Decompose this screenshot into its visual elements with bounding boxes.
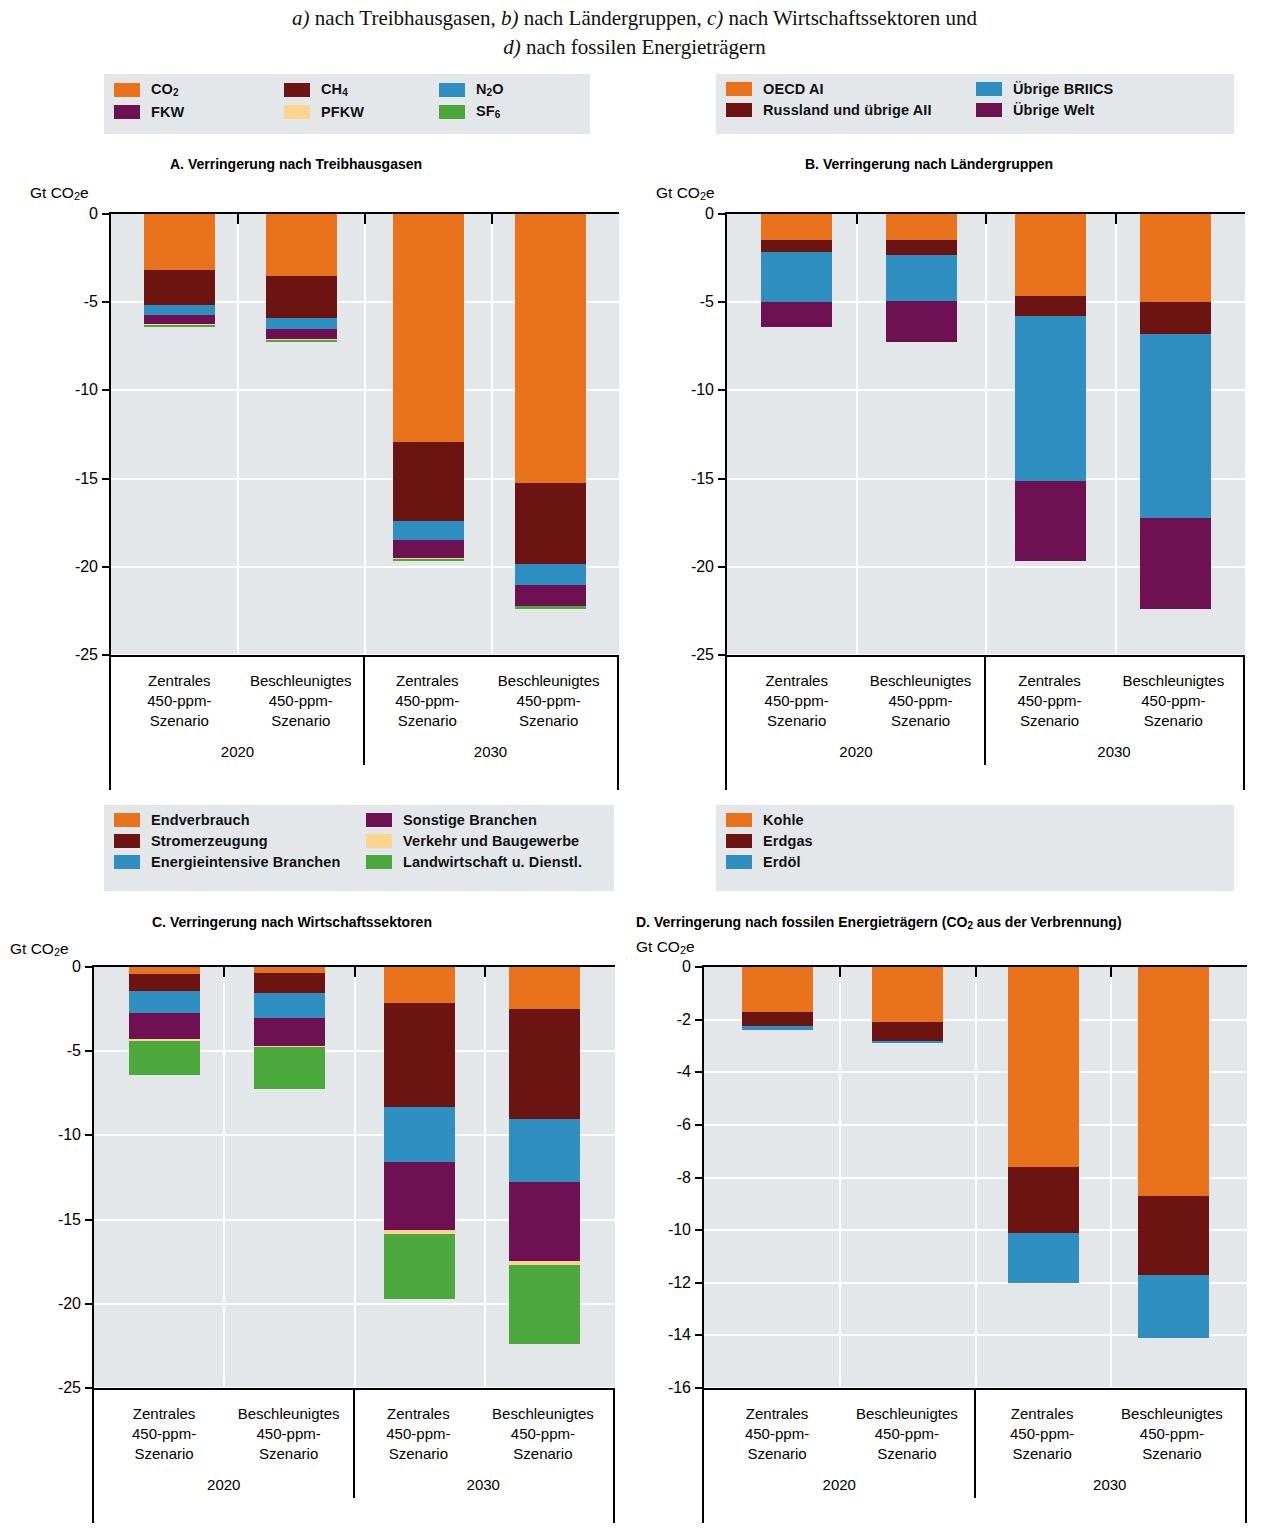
- bar-segment: [509, 1265, 580, 1344]
- legend-item-co2: CO2: [114, 81, 284, 98]
- bar-segment: [1008, 1167, 1079, 1233]
- legend-item-erdgas: Erdgas: [726, 833, 976, 849]
- y-axis-tick: [102, 478, 111, 480]
- bar-segment: [886, 240, 957, 254]
- scenario-label: Beschleunigtes450-ppm-Szenario: [1088, 671, 1258, 731]
- y-axis-label: -6: [677, 1116, 691, 1134]
- legend-swatch-n2o: [439, 83, 465, 97]
- bar-segment: [384, 1107, 455, 1163]
- group-label-2020: 2020: [789, 1476, 889, 1493]
- group-divider: [984, 655, 986, 765]
- x-axis-tick: [1110, 967, 1112, 977]
- scenario-label: Beschleunigtes450-ppm-Szenario: [1087, 1404, 1257, 1464]
- y-axis-label: -25: [691, 646, 714, 664]
- legend-swatch-erdoel: [726, 855, 752, 869]
- bar-c-3: [384, 967, 455, 1299]
- panel-a-x-axis-labels: Zentrales450-ppm-SzenarioBeschleunigtes4…: [109, 655, 619, 790]
- bar-segment: [254, 993, 325, 1018]
- bar-segment: [761, 240, 832, 252]
- group-divider: [363, 655, 365, 765]
- y-axis-tick: [102, 213, 111, 215]
- legend-item-uebrige-welt: Übrige Welt: [976, 102, 1236, 118]
- bar-segment: [393, 559, 464, 562]
- bar-segment: [515, 483, 586, 564]
- scenario-label-line: Szenario: [1087, 1444, 1257, 1464]
- panel-b-axis-unit: Gt CO2e: [656, 184, 715, 202]
- y-axis-label: -20: [58, 1295, 81, 1313]
- y-axis-tick: [718, 301, 727, 303]
- y-axis-label: -5: [700, 293, 714, 311]
- x-axis-tick: [839, 967, 841, 977]
- bar-segment: [384, 967, 455, 1003]
- caption-marker-d: d): [503, 35, 521, 59]
- scenario-label-line: Szenario: [458, 1444, 628, 1464]
- legend-swatch-verkehr-und-baugewerbe: [366, 834, 392, 848]
- vertical-separator: [491, 214, 493, 655]
- y-axis-label: -16: [668, 1379, 691, 1397]
- group-label-2030: 2030: [1064, 743, 1164, 760]
- legend-item-endverbrauch: Endverbrauch: [114, 812, 366, 828]
- bar-segment: [872, 1022, 943, 1040]
- bar-segment: [129, 991, 200, 1014]
- vertical-separator: [1110, 967, 1112, 1388]
- bar-b-1: [761, 214, 832, 327]
- vertical-separator: [237, 214, 239, 655]
- group-label-2020: 2020: [188, 743, 288, 760]
- bar-segment: [266, 318, 337, 329]
- bar-a-4: [515, 214, 586, 609]
- legend-label-kohle: Kohle: [763, 812, 804, 828]
- scenario-label-line: 450-ppm-: [464, 691, 634, 711]
- legend-country-groups: OECD AIÜbrige BRIICSRussland und übrige …: [716, 74, 1234, 134]
- y-axis-label: -25: [58, 1379, 81, 1397]
- legend-swatch-stromerzeugung: [114, 834, 140, 848]
- legend-item-n2o: N2O: [439, 81, 579, 98]
- bar-b-3: [1015, 214, 1086, 561]
- legend-economic-sectors: EndverbrauchSonstige BranchenStromerzeug…: [104, 805, 614, 891]
- bar-segment: [266, 340, 337, 342]
- x-axis-tick: [354, 967, 356, 977]
- bar-segment: [254, 1047, 325, 1089]
- y-axis-tick: [695, 966, 704, 968]
- axis-unit-text: Gt CO: [10, 940, 54, 957]
- bar-d-4: [1138, 967, 1209, 1338]
- legend-swatch-sf6: [439, 105, 465, 119]
- bar-segment: [129, 1041, 200, 1075]
- bar-segment: [515, 214, 586, 483]
- bar-segment: [266, 214, 337, 276]
- y-axis-tick: [718, 478, 727, 480]
- legend-fossil-fuels: KohleErdgasErdöl: [716, 805, 1234, 891]
- legend-greenhouse-gases: CO2CH4N2OFKWPFKWSF6: [104, 74, 590, 134]
- scenario-label-line: Szenario: [464, 711, 634, 731]
- x-axis-tick: [223, 967, 225, 977]
- bar-segment: [886, 214, 957, 240]
- legend-swatch-landwirtschaft-u-dienstl: [366, 855, 392, 869]
- bar-d-3: [1008, 967, 1079, 1283]
- legend-label-sonstige-branchen: Sonstige Branchen: [403, 812, 537, 828]
- y-axis-label: -10: [691, 381, 714, 399]
- caption-marker-b: b): [501, 6, 519, 30]
- panel-d-title: D. Verringerung nach fossilen Energieträ…: [636, 914, 1122, 931]
- bar-segment: [509, 1119, 580, 1181]
- scenario-label-line: Szenario: [1088, 711, 1258, 731]
- panel-a-plot-area: 0-5-10-15-20-25: [109, 212, 619, 655]
- legend-label-erdgas: Erdgas: [763, 833, 813, 849]
- legend-label-fkw: FKW: [151, 104, 184, 120]
- y-axis-tick: [102, 301, 111, 303]
- caption-text-a: nach Treibhausgasen,: [310, 6, 501, 30]
- bar-segment: [1140, 302, 1211, 334]
- y-axis-label: -10: [75, 381, 98, 399]
- scenario-label-line: Beschleunigtes: [458, 1404, 628, 1424]
- x-axis-tick: [491, 214, 493, 224]
- legend-item-fkw: FKW: [114, 103, 284, 120]
- panel-d-title-b: aus der Verbrennung): [973, 914, 1122, 930]
- y-axis-label: -15: [58, 1211, 81, 1229]
- y-axis-label: -5: [84, 293, 98, 311]
- legend-swatch-sonstige-branchen: [366, 813, 392, 827]
- bar-segment: [129, 1013, 200, 1039]
- vertical-separator: [839, 967, 841, 1388]
- bar-segment: [515, 606, 586, 609]
- group-label-2020: 2020: [806, 743, 906, 760]
- panel-d-x-axis-labels: Zentrales450-ppm-SzenarioBeschleunigtes4…: [702, 1388, 1247, 1523]
- group-label-2030: 2030: [441, 743, 541, 760]
- bar-segment: [384, 1003, 455, 1107]
